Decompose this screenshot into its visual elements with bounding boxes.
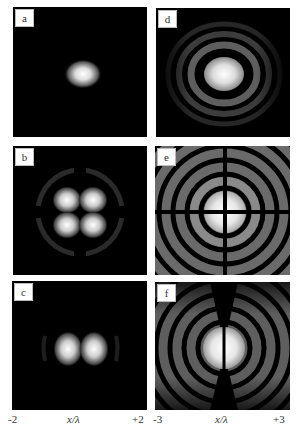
panel-label-f: f: [157, 284, 176, 302]
panel-f: f: [155, 282, 290, 410]
panel-label-c: c: [14, 283, 33, 301]
panel-label-b: b: [15, 148, 34, 166]
left-axis-max: +2: [132, 413, 144, 425]
panel-a: a: [13, 7, 147, 137]
panel-c: c: [12, 281, 147, 410]
left-axis-label: x/λ: [67, 413, 80, 425]
panel-d: d: [156, 8, 290, 137]
panel-e: e: [155, 146, 290, 275]
panel-label-a: a: [15, 9, 34, 27]
right-axis-max: +3: [273, 413, 285, 425]
panel-b: b: [13, 146, 147, 275]
panel-label-d: d: [158, 10, 177, 28]
right-axis-min: -3: [153, 413, 162, 425]
panel-label-e: e: [157, 148, 176, 166]
left-axis-min: -2: [8, 413, 17, 425]
right-axis-label: x/λ: [215, 413, 228, 425]
